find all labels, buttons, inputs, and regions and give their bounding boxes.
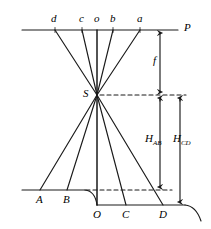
label-image-plane-p: P — [184, 22, 191, 33]
terrain-slope-left — [85, 190, 97, 205]
ray-s-to-B — [67, 95, 97, 190]
ray-s-to-C — [97, 95, 126, 205]
label-image-point-o: o — [94, 13, 100, 24]
label-ground-point-O: O — [93, 209, 101, 220]
label-ground-point-A: A — [36, 194, 43, 205]
label-ground-point-D: D — [159, 209, 167, 220]
diagram-canvas — [0, 0, 211, 229]
label-image-point-d: d — [51, 13, 57, 24]
label-image-point-b: b — [110, 13, 116, 24]
label-height-cd-main: H — [173, 132, 181, 144]
ray-d-to-s — [55, 30, 97, 95]
photogrammetry-diagram: d c o b a P S f HAB HCD A B O C D — [0, 0, 211, 229]
label-image-point-c: c — [79, 13, 84, 24]
label-height-ab-sub: AB — [153, 139, 162, 147]
label-height-cd: HCD — [173, 133, 191, 147]
label-ground-point-C: C — [122, 209, 129, 220]
ray-b-to-s — [97, 30, 113, 95]
label-image-point-a: a — [137, 13, 143, 24]
label-station-point-s: S — [83, 88, 89, 99]
label-height-cd-sub: CD — [181, 139, 191, 147]
label-height-ab-main: H — [145, 132, 153, 144]
label-height-ab: HAB — [145, 133, 162, 147]
ray-c-to-s — [82, 30, 97, 95]
ray-s-to-D — [97, 95, 163, 205]
label-focal-length-f: f — [153, 55, 156, 66]
ray-s-to-A — [40, 95, 97, 190]
terrain-slope-right — [185, 205, 201, 221]
label-ground-point-B: B — [63, 194, 70, 205]
ray-a-to-s — [97, 30, 140, 95]
